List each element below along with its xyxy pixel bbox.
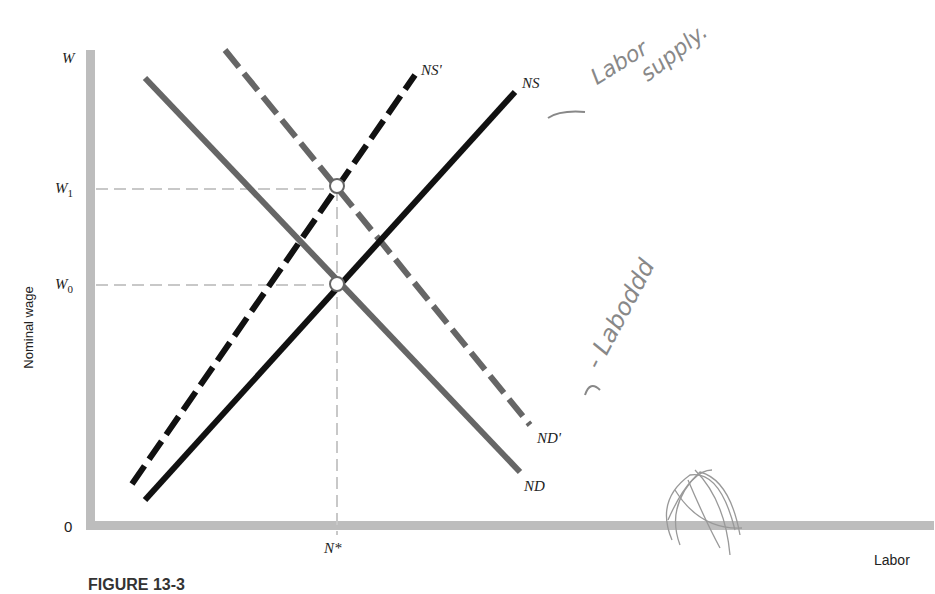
w0-subscript: 0 bbox=[68, 283, 74, 295]
w0-letter: W bbox=[55, 276, 68, 292]
nd-prime-line bbox=[225, 50, 530, 425]
w0-tick-label: W0 bbox=[55, 276, 73, 295]
equilibrium-point-1 bbox=[330, 179, 344, 193]
y-axis bbox=[86, 50, 95, 530]
nd-label: ND bbox=[524, 478, 545, 495]
y-axis-top-label: W bbox=[62, 50, 75, 67]
origin-label: 0 bbox=[64, 518, 72, 535]
equilibrium-point-0 bbox=[330, 277, 344, 291]
w1-letter: W bbox=[55, 180, 68, 196]
nstar-tick-label: N* bbox=[324, 540, 342, 557]
w1-tick-label: W1 bbox=[55, 180, 73, 199]
ns-line bbox=[145, 92, 515, 500]
ns-prime-label: NS' bbox=[421, 62, 442, 79]
handwriting-bracket-supply bbox=[548, 112, 585, 118]
x-axis bbox=[86, 521, 934, 530]
handwriting-scribble bbox=[666, 470, 742, 555]
ns-label: NS bbox=[522, 75, 540, 92]
handwriting-dash-demand bbox=[585, 386, 600, 395]
w1-subscript: 1 bbox=[68, 187, 74, 199]
nd-prime-label: ND' bbox=[537, 430, 561, 447]
x-axis-label: Labor bbox=[874, 552, 910, 568]
ns-prime-line bbox=[132, 75, 415, 484]
y-axis-label: Nominal wage bbox=[21, 278, 36, 378]
nd-line bbox=[145, 78, 520, 472]
figure-caption: FIGURE 13-3 bbox=[88, 576, 185, 594]
